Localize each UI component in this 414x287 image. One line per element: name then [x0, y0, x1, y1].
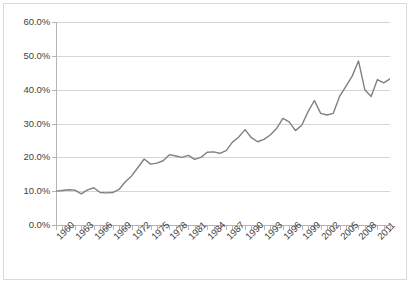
y-axis-tick-label: 20.0%	[24, 151, 50, 162]
y-axis-tick-label: 40.0%	[24, 84, 50, 95]
chart-container: 60.0%50.0%40.0%30.0%20.0%10.0%0.0% 19601…	[0, 0, 414, 287]
y-axis-tick-label: 30.0%	[24, 118, 50, 129]
y-axis-tick-label: 60.0%	[24, 16, 50, 27]
line-series-plot	[56, 22, 390, 225]
y-axis-tick-label: 50.0%	[24, 50, 50, 61]
y-axis-tick-label: 0.0%	[29, 219, 50, 230]
data-line-trade-pct-gdp	[56, 61, 390, 194]
y-axis-tick-label: 10.0%	[24, 185, 50, 196]
